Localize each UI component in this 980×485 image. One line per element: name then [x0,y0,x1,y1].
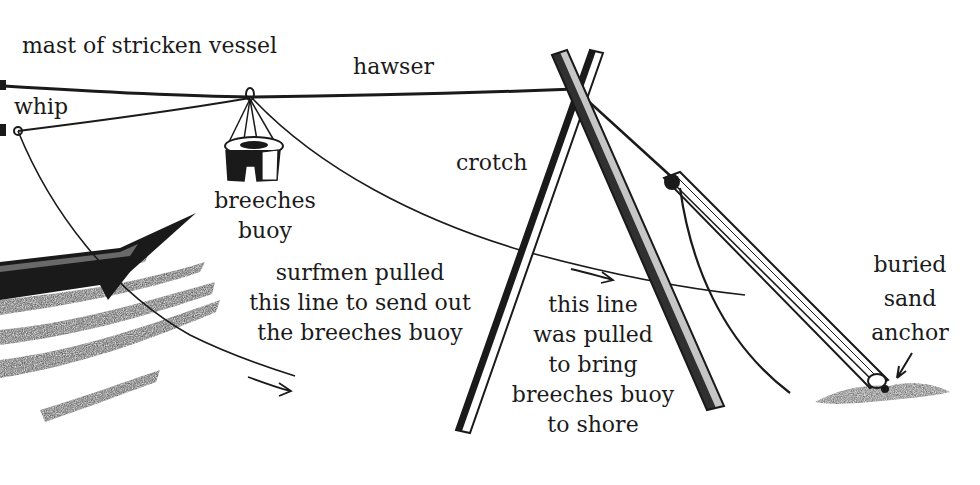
label-mast: mast of stricken vessel [22,31,277,61]
send-out-arrow-icon [248,377,291,396]
label-line: buoy [210,216,320,246]
label-line: surfmen pulled [228,258,492,288]
hawser-rope [4,86,575,97]
label-whip: whip [14,92,68,122]
breeches-buoy-diagram [0,0,980,485]
label-line: buried [860,248,960,282]
breeches-buoy [225,88,283,181]
label-sand-anchor: buried sand anchor [860,248,960,350]
label-hawser: hawser [353,52,434,82]
label-line: was pulled [496,320,690,350]
sand-mound [815,383,950,404]
label-crotch: crotch [456,148,527,178]
anchor-arrow-icon [897,353,912,378]
label-line: this line to send out [228,288,492,318]
label-line: breeches [210,186,320,216]
label-line: sand [860,282,960,316]
label-line: this line [496,290,690,320]
label-send-out-line: surfmen pulled this line to send out the… [228,258,492,348]
label-breeches-buoy: breeches buoy [210,186,320,246]
label-line: anchor [860,316,960,350]
label-line: breeches buoy [496,380,690,410]
label-line: to shore [496,410,690,440]
label-line: to bring [496,350,690,380]
label-return-line: this line was pulled to bring breeches b… [496,290,690,440]
label-line: the breeches buoy [228,318,492,348]
